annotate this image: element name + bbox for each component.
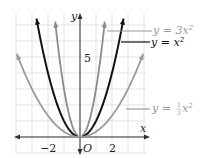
origin-label: O	[83, 142, 92, 155]
legend-third-x2: y = 1 3 x2	[151, 101, 193, 116]
x-tick-2: 2	[109, 142, 116, 155]
legend-x2: y = x2	[150, 36, 185, 49]
grid	[16, 13, 146, 153]
y-axis-label: y	[70, 10, 78, 23]
y-axis-up-arrow-icon	[78, 13, 83, 19]
svg-text:x2: x2	[182, 102, 193, 115]
y-tick-5: 5	[84, 52, 91, 65]
svg-text:1: 1	[177, 101, 181, 108]
parabola-chart: y x 5 −2 2 O y = 3x2 y = x2 y = 1 3 x2	[0, 0, 204, 158]
x-axis-left-arrow-icon	[14, 135, 20, 140]
x-axis-right-arrow-icon	[144, 135, 150, 140]
y-axis-down-arrow-icon	[78, 149, 83, 155]
svg-text:3: 3	[177, 109, 181, 116]
x-axis-label: x	[140, 122, 147, 135]
x-tick-neg2: −2	[40, 142, 56, 155]
svg-text:y =: y =	[151, 102, 171, 115]
